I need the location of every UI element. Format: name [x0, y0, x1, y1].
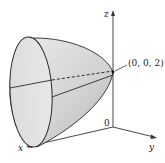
y-axis [113, 127, 154, 137]
x-axis-label: x [18, 143, 23, 153]
origin-label: 0 [104, 118, 110, 128]
vertex-point [112, 71, 115, 74]
z-axis-arrow [111, 10, 115, 16]
z-axis-label: z [103, 9, 109, 19]
vertex-label: (0, 0, 2) [128, 58, 164, 68]
y-axis-label: y [148, 142, 155, 152]
y-axis-arrow [151, 135, 158, 140]
vertex-leader-line [115, 65, 127, 71]
paraboloid-diagram: (0, 0, 2) z 0 y x [0, 0, 165, 163]
